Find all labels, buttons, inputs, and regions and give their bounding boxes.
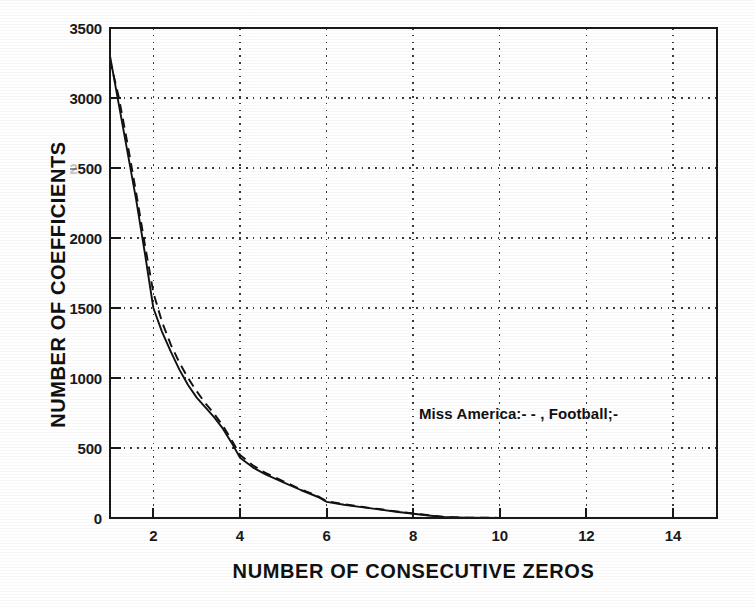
xtick-label-2: 2 bbox=[149, 527, 157, 544]
figure-chart: 3500 3000 2500 2000 1500 1000 500 0 2 4 … bbox=[0, 0, 754, 607]
y-axis-title: NUMBER OF COEFFICIENTS bbox=[47, 40, 70, 530]
ytick-label-3500: 3500 bbox=[50, 20, 102, 37]
xtick-label-4: 4 bbox=[236, 527, 244, 544]
xtick-label-10: 10 bbox=[492, 527, 508, 544]
x-axis-title: NUMBER OF CONSECUTIVE ZEROS bbox=[110, 560, 717, 583]
xtick-label-8: 8 bbox=[409, 527, 417, 544]
xtick-label-14: 14 bbox=[665, 527, 681, 544]
xtick-label-12: 12 bbox=[578, 527, 594, 544]
legend-annotation: Miss America:- - , Football;- bbox=[419, 405, 618, 422]
plot-canvas bbox=[0, 0, 754, 607]
xtick-label-6: 6 bbox=[322, 527, 330, 544]
